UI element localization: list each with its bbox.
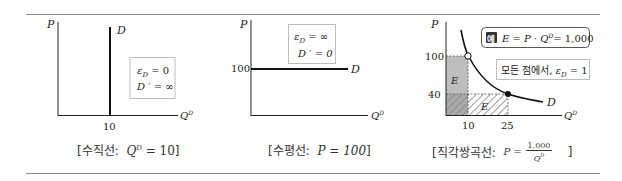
x-tick-25: 25 bbox=[501, 120, 514, 131]
point-open bbox=[465, 53, 471, 59]
bottom-rule bbox=[26, 173, 600, 174]
example-badge-label: 예 bbox=[487, 34, 495, 44]
x-axis-label: QD bbox=[371, 109, 384, 121]
y-axis-label: P bbox=[46, 18, 55, 31]
y-tick-100: 100 bbox=[231, 63, 250, 74]
chart-vertical-demand: P QD D 10 εD = 0 D ′ = ∞ bbox=[0, 0, 210, 140]
elasticity-box bbox=[130, 58, 175, 99]
caption-vertical: [수직선: QD = 10] bbox=[77, 141, 179, 158]
y-axis-label: P bbox=[430, 18, 439, 31]
slope-text: D ′ = ∞ bbox=[136, 81, 174, 92]
area-label-E-hatched: E bbox=[480, 101, 489, 112]
area-dark-overlap bbox=[446, 94, 468, 115]
x-tick-10: 10 bbox=[462, 120, 475, 131]
slope-text: D ′ = 0 bbox=[297, 48, 333, 59]
y-axis-label: P bbox=[239, 18, 248, 31]
caption-horizontal: [수평선: P = 100] bbox=[268, 141, 371, 158]
x-axis-label: QD bbox=[564, 109, 577, 121]
area-label-E-gray: E bbox=[450, 75, 459, 86]
fraction: 1,000 QD bbox=[526, 141, 553, 163]
y-tick-40: 40 bbox=[428, 89, 441, 100]
x-tick-10: 10 bbox=[103, 121, 116, 132]
demand-label: D bbox=[116, 24, 126, 37]
demand-label: D bbox=[546, 96, 556, 109]
example-formula: E = P · QD= 1,000 bbox=[501, 32, 594, 44]
demand-label: D bbox=[350, 63, 360, 76]
x-axis-label: QD bbox=[180, 109, 193, 121]
chart-rectangular-hyperbola: P E E QD D 100 40 10 25 예 E = P · QD= 1,… bbox=[400, 0, 622, 140]
point-filled bbox=[505, 91, 511, 97]
y-tick-100: 100 bbox=[425, 51, 444, 62]
chart-horizontal-demand: P QD D 100 εD = ∞ D ′ = 0 bbox=[210, 0, 410, 140]
caption-hyperbola: [직각쌍곡선: P = 1,000 QD ] bbox=[432, 141, 572, 163]
